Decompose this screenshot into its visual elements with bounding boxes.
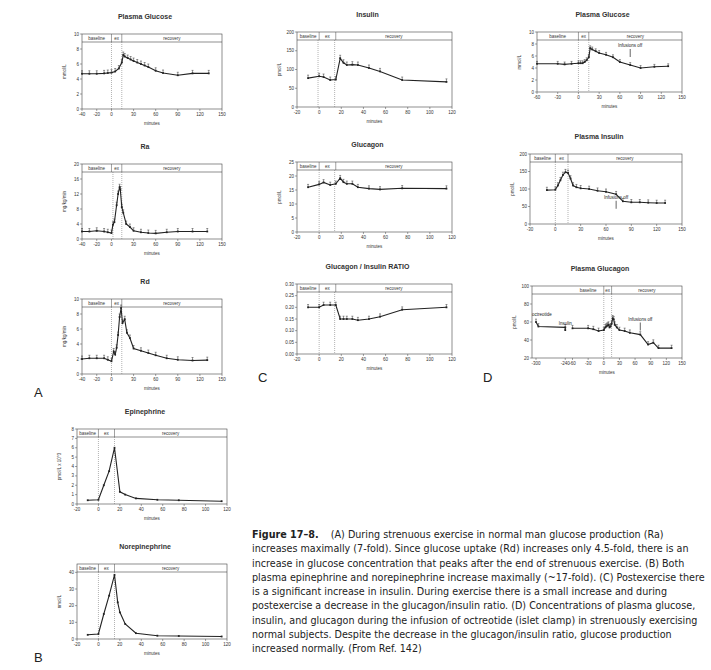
x-tick-label: 0 [110, 377, 113, 382]
chart-c-insulin: Insulinbaselineexrecovery050100150200-20… [275, 8, 460, 133]
y-tick-label: 0.05 [285, 340, 294, 345]
y-tick-label: 4 [76, 77, 79, 82]
data-point [178, 499, 180, 501]
data-point [87, 634, 89, 636]
phase-label: ex [581, 34, 587, 39]
y-tick-label: 10 [69, 620, 75, 625]
x-tick-label: 20 [339, 110, 345, 115]
y-axis-label: mmol/L [62, 64, 67, 79]
data-point [98, 499, 100, 501]
y-tick-label: 20 [289, 174, 295, 179]
x-tick-label: -20 [294, 357, 301, 362]
data-point [108, 470, 110, 472]
y-tick-label: 0 [71, 502, 74, 507]
data-point [103, 613, 105, 615]
x-tick-label: 0 [318, 110, 321, 115]
plot-frame [82, 164, 222, 239]
x-tick-label: 120 [663, 361, 671, 366]
plot-frame [77, 429, 227, 504]
y-tick-label: 2 [531, 78, 534, 83]
phase-label: recovery [162, 566, 180, 571]
plot-frame [82, 299, 222, 374]
y-tick-label: 150 [519, 169, 527, 174]
x-tick-label: 120 [658, 95, 666, 100]
y-tick-label: 0 [524, 222, 527, 227]
x-tick-label: 150 [678, 95, 686, 100]
y-tick-label: 25 [289, 160, 295, 165]
x-tick-label: 20 [339, 357, 345, 362]
y-tick-label: 4 [531, 66, 534, 71]
data-point [178, 635, 180, 637]
y-tick-label: 3 [71, 473, 74, 478]
x-tick-label: 100 [202, 507, 210, 512]
x-axis-label: minutes [598, 236, 615, 241]
caption-label: Figure 17–8. [252, 529, 319, 540]
plot-frame [537, 32, 682, 92]
x-axis-label: minutes [144, 121, 161, 126]
x-axis-label: minutes [144, 516, 161, 521]
x-tick-label: -20 [93, 242, 100, 247]
data-point [156, 635, 158, 637]
x-tick-label: 120 [196, 242, 204, 247]
phase-label: ex [104, 566, 110, 571]
x-tick-label: 150 [678, 361, 686, 366]
y-tick-label: 16 [74, 177, 80, 182]
x-tick-label: -20 [294, 235, 301, 240]
phase-label: recovery [385, 286, 403, 291]
x-tick-label: 0 [554, 227, 557, 232]
x-tick-label: 30 [578, 227, 584, 232]
y-tick-label: 0 [291, 105, 294, 110]
data-point [98, 633, 100, 635]
x-tick-label: 120 [223, 507, 231, 512]
y-tick-label: 0 [76, 372, 79, 377]
chart-title: Norepinephrine [119, 543, 171, 551]
phase-label: ex [325, 164, 331, 169]
plot-frame [297, 284, 452, 354]
x-axis-label: minutes [144, 651, 161, 656]
y-tick-label: 40 [524, 338, 530, 343]
x-tick-label: 120 [653, 227, 661, 232]
x-tick-label: 90 [638, 95, 644, 100]
y-tick-label: 8 [76, 47, 79, 52]
x-tick-label: 0 [577, 95, 580, 100]
y-tick-label: 40 [69, 570, 75, 575]
chart-b-norepinephrine: Norepinephrinebaselineexrecovery01020304… [55, 540, 235, 665]
y-tick-label: 2 [71, 483, 74, 488]
y-tick-label: 200 [286, 30, 294, 35]
x-tick-label: -300 [531, 361, 541, 366]
chart-title: Insulin [356, 11, 379, 18]
panel-letter-b: B [34, 650, 43, 665]
phase-label: ex [605, 288, 611, 293]
x-tick-label: 90 [175, 377, 181, 382]
phase-label: recovery [163, 36, 181, 41]
y-tick-label: 8 [71, 427, 74, 432]
y-tick-label: 2 [76, 92, 79, 97]
chart-d-plasma-glucagon: Plasma Glucagonbaselineexrecovery2040608… [510, 262, 690, 384]
x-tick-label: 60 [383, 110, 389, 115]
chart-title: Rd [140, 278, 149, 285]
x-tick-label: 60 [160, 507, 166, 512]
chart-title: Plasma Glucose [118, 13, 172, 20]
phase-label: baseline [549, 34, 566, 39]
x-tick-label: 100 [202, 642, 210, 647]
y-tick-label: 0.30 [285, 282, 294, 287]
x-tick-label: 20 [117, 507, 123, 512]
y-tick-label: 8 [76, 207, 79, 212]
data-point [119, 611, 121, 613]
y-tick-label: 8 [531, 42, 534, 47]
annotation: Insulin [559, 321, 573, 326]
data-point [108, 595, 110, 597]
y-tick-label: 150 [286, 48, 294, 53]
data-line [88, 448, 222, 501]
x-tick-label: 0 [603, 361, 606, 366]
phase-label: baseline [300, 164, 317, 169]
chart-title: Epinephrine [125, 408, 166, 416]
y-tick-label: 100 [286, 67, 294, 72]
phase-label: ex [325, 286, 331, 291]
x-tick-label: 0 [318, 357, 321, 362]
y-axis-label: pmol/L x 10^3 [57, 452, 62, 480]
y-tick-label: 50 [522, 204, 528, 209]
x-tick-label: -20 [74, 642, 81, 647]
data-line [82, 187, 207, 233]
y-tick-label: 7 [71, 436, 74, 441]
